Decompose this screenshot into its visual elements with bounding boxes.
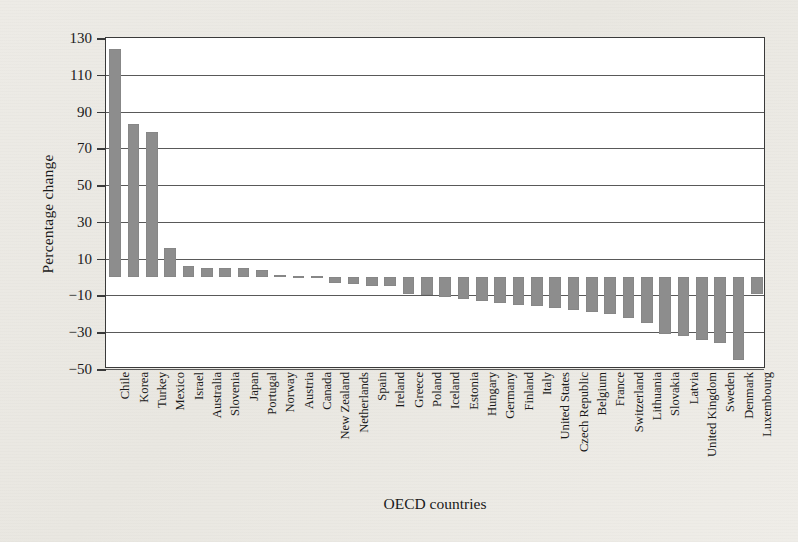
y-axis-tick [97,332,106,334]
x-axis-tick-label: Japan [248,372,261,401]
bar [641,277,652,323]
y-axis-tick [97,295,106,297]
x-axis-tick-label: Israel [193,372,206,400]
x-axis-tick-label: Poland [431,372,444,407]
x-axis-tick-label: Austria [303,372,316,409]
y-axis-tick-label: 110 [70,66,92,83]
bar [348,277,359,284]
bar [714,277,725,343]
x-axis-tick-label: Germany [504,372,517,419]
y-axis-title: Percentage change [39,104,57,324]
x-axis-tick-label: Italy [541,372,554,395]
x-axis-tick-label: United Kingdom [706,372,719,457]
y-axis-tick-label: 30 [77,213,92,230]
bar [733,277,744,360]
y-axis-tick-label: 70 [77,140,92,157]
bar [421,277,432,295]
bar [458,277,469,299]
x-axis-tick-label: Iceland [449,372,462,409]
bar [678,277,689,336]
bar [164,248,175,277]
x-axis-tick-label: Czech Republic [578,372,591,452]
x-axis-tick-label: Belgium [596,372,609,415]
x-axis-tick-label: Korea [138,372,151,403]
x-axis-tick-label: Canada [321,372,334,410]
x-axis-tick-label: Switzerland [633,372,646,432]
x-axis-tick-label: Sweden [724,372,737,412]
x-axis-tick-label: Norway [284,372,297,413]
bar [586,277,597,312]
x-axis-tick-label: Denmark [743,372,756,419]
y-axis-tick [97,185,106,187]
bar [659,277,670,334]
x-axis-tick-label: Chile [119,372,132,399]
y-axis-tick-label: −30 [69,324,92,341]
bar [476,277,487,301]
y-axis-tick-label: 50 [77,177,92,194]
y-axis-tick-label: 130 [70,30,93,47]
y-axis-tick-label: 10 [77,250,92,267]
bar [604,277,615,314]
bar [109,49,120,277]
x-axis-tick-label: Spain [376,372,389,401]
y-axis-tick [97,222,106,224]
bar [128,124,139,277]
bar [494,277,505,303]
y-axis-tick-label: −50 [69,361,92,378]
x-axis-tick-label: France [614,372,627,406]
bar [146,132,157,277]
bar [256,270,267,277]
y-axis-tick [97,148,106,150]
gridline [106,369,764,370]
x-axis-tick-label: United States [559,372,572,440]
x-axis-tick-label: Portugal [266,372,279,415]
bar [384,277,395,286]
bar [696,277,707,340]
y-axis-tick [97,112,106,114]
bar-series [106,38,764,367]
bar [238,268,249,277]
y-axis-tick-label: −10 [69,287,92,304]
x-axis-tick-labels: ChileKoreaTurkeyMexicoIsraelAustraliaSlo… [105,372,765,492]
bar [366,277,377,286]
x-axis-tick-label: Estonia [468,372,481,410]
bar [183,266,194,277]
x-axis-tick-label: Slovenia [229,372,242,416]
x-axis-tick-label: Luxembourg [761,372,774,437]
y-axis-tick [97,369,106,371]
bar [219,268,230,277]
x-axis-tick-label: Lithuania [651,372,664,420]
y-axis-tick [97,75,106,77]
x-axis-tick-label: Australia [211,372,224,418]
bar [568,277,579,310]
bar [549,277,560,308]
y-axis-tick [97,259,106,261]
bar [531,277,542,306]
bar [513,277,524,305]
bar [403,277,414,294]
x-axis-tick-label: Turkey [156,372,169,408]
bar [751,277,762,294]
x-axis-tick-label: Netherlands [358,372,371,433]
bar [623,277,634,317]
x-axis-tick-label: Latvia [688,372,701,404]
bar [274,275,285,277]
x-axis-tick-label: Hungary [486,372,499,416]
x-axis-tick-label: Ireland [394,372,407,408]
bar [293,276,304,278]
bar [439,277,450,297]
x-axis-tick-label: New Zealand [339,372,352,439]
bar [329,277,340,283]
x-axis-tick-label: Greece [413,372,426,408]
bar [201,268,212,277]
plot-area: 1301109070503010−10−30−50 [105,37,765,368]
x-axis-title: OECD countries [105,495,765,513]
bar [311,276,322,278]
x-axis-tick-label: Slovakia [669,372,682,416]
y-axis-tick-label: 90 [77,103,92,120]
chart-figure: Percentage change 1301109070503010−10−30… [0,0,798,542]
x-axis-tick-label: Mexico [174,372,187,410]
y-axis-tick [97,38,106,40]
x-axis-tick-label: Finland [523,372,536,410]
